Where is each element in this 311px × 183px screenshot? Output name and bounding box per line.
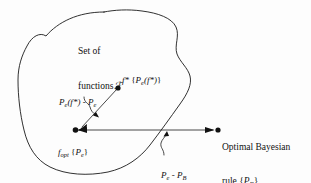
- bayes-rule-line1: Optimal Bayesian: [222, 142, 290, 153]
- bayes-gap-leader-arrowhead: [164, 131, 170, 137]
- label-bayes-rule: Optimal Bayesian rule {PB}: [222, 120, 290, 183]
- excess-p2-subscript: e: [93, 100, 96, 107]
- label-f-star: f* {Pe(f*)}: [113, 64, 161, 96]
- gap-p2-subscript: B: [182, 173, 186, 180]
- bayes-gap-arrowhead-right: [205, 127, 215, 133]
- label-bayes-gap: Pe - PB: [152, 159, 186, 183]
- label-f-opt: fopt {Pe}: [49, 136, 88, 168]
- bayes-bracket-close: }: [254, 176, 259, 183]
- f-star-bracket-close: }: [157, 75, 161, 85]
- f-star-bracket-open: {: [129, 75, 136, 85]
- f-opt-bracket-close: }: [84, 147, 88, 157]
- f-opt-node-dot: [73, 127, 79, 133]
- bayes-gap-leader-squiggle: [161, 134, 166, 155]
- label-excess-risk: Pe(f*) - Pe: [50, 86, 96, 118]
- bayes-node-dot: [215, 127, 220, 132]
- excess-minus-sign: -: [80, 97, 88, 107]
- set-of-functions-line1: Set of: [78, 46, 122, 57]
- bayes-rule-line2: rule {PB}: [222, 176, 290, 183]
- gap-minus-sign: -: [169, 170, 177, 180]
- f-opt-subscript: opt: [61, 150, 69, 157]
- diagram-canvas: Set of functionsℱ f* {Pe(f*)} Pe(f*) - P…: [0, 0, 311, 183]
